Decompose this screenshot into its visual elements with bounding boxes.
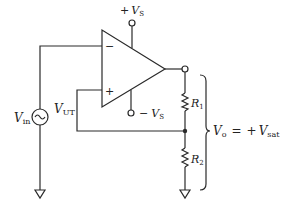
output-terminal	[182, 66, 188, 72]
r1-label: R1	[190, 97, 204, 111]
brace-icon	[200, 75, 210, 190]
positive-supply-label: +VS	[120, 4, 144, 18]
inverting-input-sign: −	[105, 40, 114, 53]
positive-supply-terminal	[129, 20, 135, 26]
positive-supply: +VS	[120, 4, 144, 48]
resistor-r1-icon	[182, 93, 188, 111]
junction-dot	[183, 129, 187, 133]
negative-supply-label: −VS	[139, 107, 164, 121]
vin-label: Vin	[14, 111, 30, 126]
r2-label: R2	[190, 153, 204, 167]
input-branch: Vin	[14, 46, 102, 198]
ground-icon-right	[180, 190, 190, 198]
negative-supply: −VS	[128, 90, 164, 121]
sine-wave-icon	[35, 115, 45, 119]
vut-label: VUT	[54, 102, 75, 117]
circuit-diagram: − + +VS −VS Vin VUT	[0, 0, 284, 213]
negative-supply-terminal	[128, 110, 134, 116]
resistor-r2-icon	[182, 148, 188, 167]
output-voltage-label: Vo=+Vsat	[213, 124, 280, 139]
output-branch: R1 R2	[165, 66, 204, 198]
opamp: − +	[102, 30, 165, 107]
ground-icon-left	[35, 190, 45, 198]
inverting-input-wire	[40, 46, 102, 109]
noninverting-input-sign: +	[105, 85, 114, 98]
